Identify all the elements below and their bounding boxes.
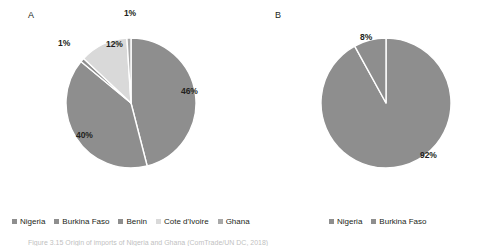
- pie-value-label: 1%: [118, 8, 142, 18]
- legend-item[interactable]: Nigeria: [329, 217, 362, 226]
- legend-item[interactable]: Cote d'Ivoire: [156, 217, 209, 226]
- legend-swatch-icon: [371, 219, 376, 224]
- pie-value-label: 1%: [58, 38, 70, 48]
- pie-value-label: 40%: [76, 130, 93, 140]
- legend-label: Nigeria: [20, 217, 45, 226]
- legend-b: NigeriaBurkina Faso: [329, 217, 426, 226]
- legend-label: Burkina Faso: [62, 217, 109, 226]
- legend-label: Nigeria: [337, 217, 362, 226]
- figure-caption: Figure 3.15 Origin of imports of Nigeria…: [28, 239, 268, 246]
- pie-chart-a: [64, 36, 198, 170]
- legend-item[interactable]: Burkina Faso: [54, 217, 109, 226]
- legend-item[interactable]: Benin: [118, 217, 146, 226]
- pie-value-label: 92%: [420, 150, 437, 160]
- legend-label: Cote d'Ivoire: [164, 217, 209, 226]
- legend-a: NigeriaBurkina FasoBeninCote d'IvoireGha…: [12, 217, 250, 226]
- legend-item[interactable]: Nigeria: [12, 217, 45, 226]
- pie-value-label: 8%: [360, 32, 372, 42]
- legend-label: Ghana: [226, 217, 250, 226]
- legend-swatch-icon: [329, 219, 334, 224]
- legend-label: Burkina Faso: [379, 217, 426, 226]
- legend-swatch-icon: [218, 219, 223, 224]
- pie-value-label: 46%: [181, 86, 198, 96]
- panel-letter-a: A: [28, 10, 34, 20]
- figure-canvas: A1%1%12%46%40%NigeriaBurkina FasoBeninCo…: [0, 0, 481, 246]
- legend-swatch-icon: [12, 219, 17, 224]
- panel-letter-b: B: [275, 10, 281, 20]
- legend-swatch-icon: [118, 219, 123, 224]
- legend-swatch-icon: [156, 219, 161, 224]
- legend-item[interactable]: Burkina Faso: [371, 217, 426, 226]
- legend-swatch-icon: [54, 219, 59, 224]
- legend-item[interactable]: Ghana: [218, 217, 250, 226]
- pie-value-label: 12%: [106, 39, 123, 49]
- legend-label: Benin: [126, 217, 146, 226]
